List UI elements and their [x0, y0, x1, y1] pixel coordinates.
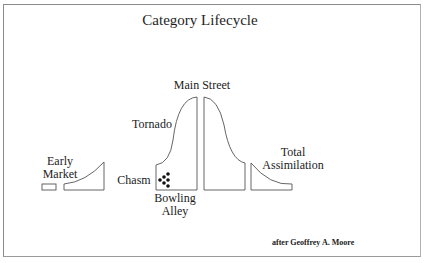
tornado-shape — [156, 97, 197, 190]
early-market-label-line2: Market — [40, 168, 80, 181]
early-market-small-block — [42, 184, 56, 190]
main-street-label: Main Street — [170, 79, 234, 92]
attribution-credit: after Geoffrey A. Moore — [272, 238, 382, 248]
bowling-alley-label-line2: Alley — [150, 205, 200, 218]
main-street-shape — [204, 97, 245, 190]
total-assimilation-label-line2: Assimilation — [258, 159, 328, 172]
tornado-label: Tornado — [132, 118, 172, 131]
lifecycle-shapes — [0, 0, 425, 263]
total-assimilation-label: Total Assimilation — [258, 146, 328, 172]
diagram-title: Category Lifecycle — [120, 12, 280, 29]
bowling-pins-icon — [158, 172, 170, 188]
chasm-label: Chasm — [116, 174, 152, 187]
early-market-label: Early Market — [40, 155, 80, 181]
bowling-alley-label: Bowling Alley — [150, 192, 200, 218]
